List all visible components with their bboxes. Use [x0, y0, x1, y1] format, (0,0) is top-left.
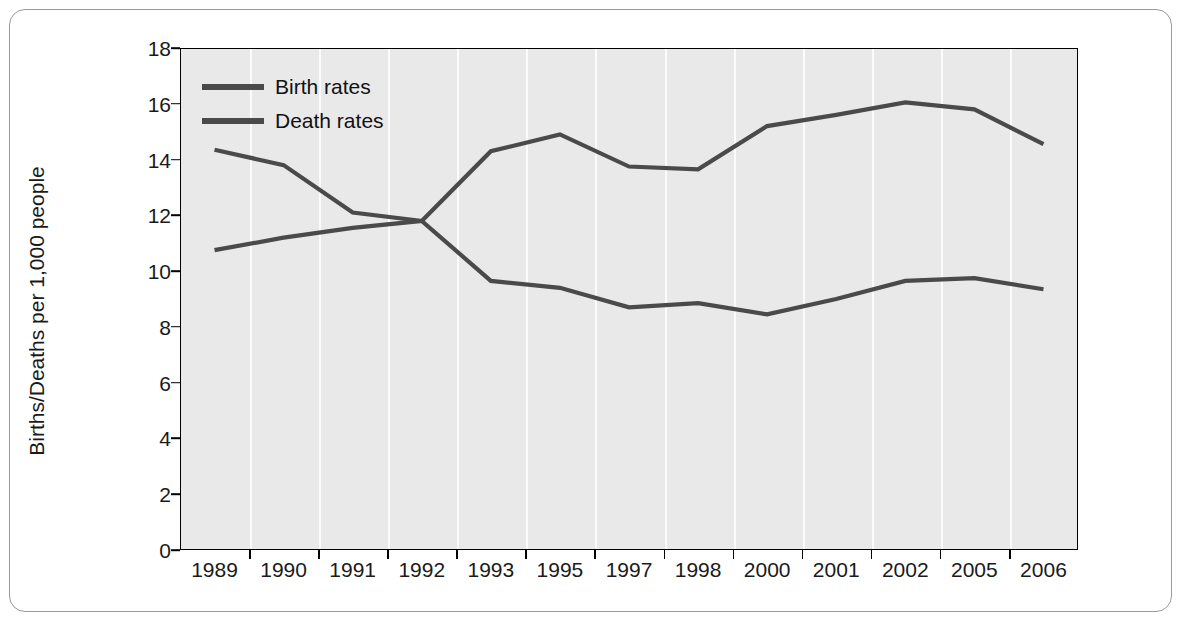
y-axis-tick-labels: 024681012141618 — [116, 0, 171, 632]
y-axis-tick-mark — [171, 438, 180, 440]
x-axis-tick-1993: 1993 — [467, 558, 514, 582]
figure-caption — [10, 618, 1010, 632]
x-axis-tick-1989: 1989 — [191, 558, 238, 582]
x-axis-tick-2002: 2002 — [882, 558, 929, 582]
x-axis-tick-mark — [594, 550, 596, 559]
y-axis-tick-10: 10 — [131, 261, 171, 282]
y-axis-tick-0: 0 — [131, 540, 171, 561]
x-axis-tick-1995: 1995 — [537, 558, 584, 582]
y-axis-tick-4: 4 — [131, 428, 171, 449]
x-axis-tick-2001: 2001 — [813, 558, 860, 582]
x-axis-tick-mark — [802, 550, 804, 559]
x-axis-tick-mark — [733, 550, 735, 559]
y-axis-tick-mark — [171, 549, 180, 551]
y-axis-tick-14: 14 — [131, 149, 171, 170]
x-axis-tick-2006: 2006 — [1020, 558, 1067, 582]
x-axis-tick-mark — [940, 550, 942, 559]
y-axis-tick-mark — [171, 326, 180, 328]
y-axis-tick-mark — [171, 47, 180, 49]
y-axis-tick-16: 16 — [131, 93, 171, 114]
y-axis-title: Births/Deaths per 1,000 people — [25, 91, 49, 531]
x-axis-tick-1997: 1997 — [606, 558, 653, 582]
series-line-birth-rates — [215, 102, 1044, 250]
x-axis-tick-1998: 1998 — [675, 558, 722, 582]
y-axis-tick-mark — [171, 493, 180, 495]
y-axis-tick-mark — [171, 215, 180, 217]
y-axis-tick-mark — [171, 159, 180, 161]
x-axis-tick-mark — [387, 550, 389, 559]
x-axis-tick-mark — [664, 550, 666, 559]
x-axis-tick-mark — [871, 550, 873, 559]
x-axis-tick-2005: 2005 — [951, 558, 998, 582]
y-axis-tick-mark — [171, 382, 180, 384]
series-lines — [180, 48, 1078, 550]
y-axis-tick-8: 8 — [131, 316, 171, 337]
y-axis-tick-6: 6 — [131, 372, 171, 393]
x-axis-tick-1990: 1990 — [260, 558, 307, 582]
x-axis-tick-1992: 1992 — [398, 558, 445, 582]
x-axis-tick-mark — [318, 550, 320, 559]
line-chart: 024681012141618 Births/Deaths per 1,000 … — [0, 0, 1184, 632]
y-axis-tick-12: 12 — [131, 205, 171, 226]
series-line-death-rates — [215, 150, 1044, 315]
x-axis-tick-mark — [525, 550, 527, 559]
x-axis-tick-2000: 2000 — [744, 558, 791, 582]
y-axis-tick-mark — [171, 270, 180, 272]
x-axis-tick-mark — [1009, 550, 1011, 559]
y-axis-tick-2: 2 — [131, 484, 171, 505]
x-axis-tick-mark — [249, 550, 251, 559]
y-axis-tick-18: 18 — [131, 38, 171, 59]
x-axis-tick-mark — [456, 550, 458, 559]
y-axis-tick-mark — [171, 103, 180, 105]
x-axis-tick-1991: 1991 — [329, 558, 376, 582]
